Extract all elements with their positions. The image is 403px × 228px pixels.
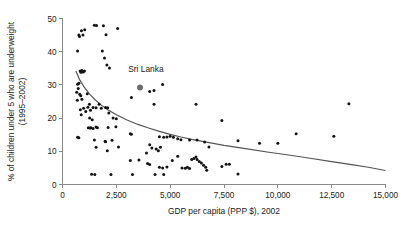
data-point xyxy=(165,165,168,168)
data-point xyxy=(83,28,86,31)
scatter-chart-figure: 0102030405002,5005,0007,50010,00012,5001… xyxy=(0,0,403,228)
data-point xyxy=(204,166,207,169)
chart-canvas: 0102030405002,5005,0007,50010,00012,5001… xyxy=(0,0,403,228)
sri-lanka-marker xyxy=(137,85,143,91)
data-point xyxy=(188,167,191,170)
data-point xyxy=(129,159,132,162)
data-point xyxy=(179,138,182,141)
data-point xyxy=(80,98,83,101)
data-point xyxy=(80,113,83,116)
data-point xyxy=(95,106,98,109)
data-point xyxy=(228,163,231,166)
y-tick-label-0: 0 xyxy=(52,181,57,190)
data-point xyxy=(295,132,298,135)
data-point xyxy=(148,163,151,166)
x-tick-label-15000: 15,000 xyxy=(373,191,398,200)
data-point xyxy=(88,103,91,106)
data-point xyxy=(93,139,96,142)
data-point xyxy=(105,33,108,36)
data-point xyxy=(176,155,179,158)
data-point xyxy=(237,139,240,142)
data-point xyxy=(86,106,89,109)
data-point xyxy=(196,139,199,142)
data-point xyxy=(176,137,179,140)
data-point xyxy=(188,139,191,142)
data-point xyxy=(159,146,162,149)
data-point xyxy=(153,89,156,92)
x-tick-label-2500: 2,500 xyxy=(106,191,127,200)
data-point xyxy=(79,108,82,111)
data-point xyxy=(162,173,165,176)
data-point xyxy=(89,109,92,112)
data-point xyxy=(102,24,105,27)
data-point xyxy=(203,141,206,144)
y-axis-title-line2: (1995–2002) xyxy=(17,78,27,126)
data-point xyxy=(158,166,161,169)
data-point xyxy=(130,96,133,99)
data-points xyxy=(75,24,350,176)
data-point xyxy=(161,166,164,169)
data-point xyxy=(131,173,134,176)
data-point xyxy=(106,149,109,152)
data-point xyxy=(195,103,198,106)
y-tick-label-30: 30 xyxy=(47,81,57,90)
data-point xyxy=(98,103,101,106)
y-axis-title-line1: % of children under 5 who are underweigh… xyxy=(6,21,16,181)
data-point xyxy=(137,158,140,161)
sri-lanka-label: Sri Lanka xyxy=(128,64,164,74)
data-point xyxy=(157,149,160,152)
data-point xyxy=(90,173,93,176)
data-point xyxy=(77,87,80,90)
data-point xyxy=(107,126,110,129)
data-point xyxy=(130,133,133,136)
data-point xyxy=(150,146,153,149)
data-point xyxy=(103,57,106,60)
data-point xyxy=(82,107,85,110)
data-point xyxy=(84,110,87,113)
data-point xyxy=(169,135,172,138)
data-point xyxy=(112,117,115,120)
data-point xyxy=(80,29,83,32)
data-point xyxy=(258,142,261,145)
data-point xyxy=(78,35,81,38)
data-point xyxy=(76,50,79,53)
data-point xyxy=(207,145,210,148)
data-point xyxy=(153,103,156,106)
data-point xyxy=(92,106,95,109)
axes: 0102030405002,5005,0007,50010,00012,5001… xyxy=(47,15,398,200)
data-point xyxy=(101,50,104,53)
data-point xyxy=(95,24,98,27)
data-point xyxy=(148,90,151,93)
y-tick-label-40: 40 xyxy=(47,48,57,57)
data-point xyxy=(106,106,109,109)
y-tick-label-20: 20 xyxy=(47,114,57,123)
data-point xyxy=(200,161,203,164)
data-point xyxy=(91,118,94,121)
data-point xyxy=(77,136,80,139)
x-axis-title: GDP per capita (PPP $), 2002 xyxy=(168,206,280,216)
trend-line xyxy=(76,71,386,171)
data-point xyxy=(220,165,223,168)
trend-curve xyxy=(76,71,386,171)
data-point xyxy=(88,117,91,120)
data-point xyxy=(115,117,118,120)
data-point xyxy=(114,125,117,128)
y-tick-label-10: 10 xyxy=(47,147,57,156)
data-point xyxy=(181,166,184,169)
data-point xyxy=(108,66,111,69)
data-point xyxy=(100,107,103,110)
data-point xyxy=(162,136,165,139)
data-point xyxy=(205,169,208,172)
data-point xyxy=(171,159,174,162)
data-point xyxy=(96,126,99,129)
data-point xyxy=(276,142,279,145)
data-point xyxy=(154,173,157,176)
data-point xyxy=(107,112,110,115)
x-tick-label-7500: 7,500 xyxy=(214,191,235,200)
data-point xyxy=(95,146,98,149)
data-point xyxy=(93,173,96,176)
data-point xyxy=(145,151,148,154)
data-point xyxy=(109,173,112,176)
x-tick-label-0: 0 xyxy=(60,191,65,200)
annotation-layer: Sri Lanka xyxy=(128,64,164,90)
